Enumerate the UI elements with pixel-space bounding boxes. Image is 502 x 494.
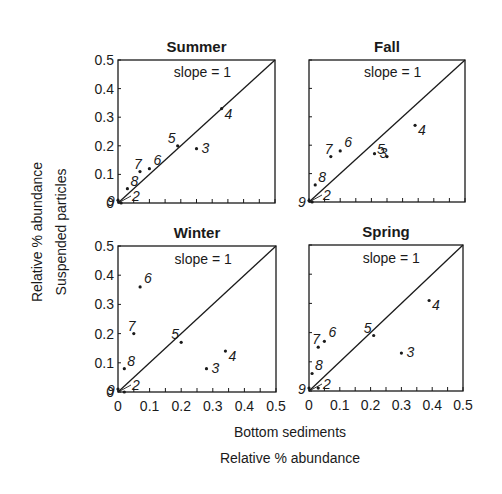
x-tick-label: 0.3 xyxy=(203,398,223,414)
panel-title: Winter xyxy=(174,224,221,241)
x-tick-label: 0 xyxy=(305,397,313,413)
data-point xyxy=(385,155,388,158)
point-label: 2 xyxy=(131,188,140,204)
data-point xyxy=(176,144,179,147)
point-label: 7 xyxy=(134,156,143,172)
data-point xyxy=(148,167,151,170)
data-point xyxy=(373,152,376,155)
point-label: 4 xyxy=(432,297,440,313)
data-point xyxy=(139,285,142,288)
y-tick-label: 0.1 xyxy=(95,166,115,182)
slope-label: slope = 1 xyxy=(174,64,231,80)
data-point xyxy=(220,107,223,110)
point-label: 4 xyxy=(228,348,236,364)
point-label: 7 xyxy=(128,318,137,334)
point-label: 2 xyxy=(322,376,331,392)
point-label: 8 xyxy=(130,173,138,189)
panel-title: Fall xyxy=(374,38,400,55)
x-tick-label: 0.2 xyxy=(361,397,381,413)
point-label: 2 xyxy=(131,377,140,393)
point-label: 3 xyxy=(406,344,414,360)
x-tick-label: 0.1 xyxy=(330,397,350,413)
point-label: 5 xyxy=(377,141,385,157)
data-point xyxy=(307,199,310,202)
point-label: 9 xyxy=(298,381,306,397)
panel-fall: Fallslope = 123456789 xyxy=(298,38,465,210)
point-label: 4 xyxy=(418,122,426,138)
y-tick-label: 0.1 xyxy=(95,355,115,371)
data-point xyxy=(180,341,183,344)
point-label: 9 xyxy=(298,194,306,210)
slope-one-line xyxy=(309,60,465,202)
panel-title: Spring xyxy=(362,223,410,240)
data-point xyxy=(339,149,342,152)
x-tick-label: 0 xyxy=(114,398,122,414)
data-point xyxy=(116,199,119,202)
data-point xyxy=(428,299,431,302)
point-label: 9 xyxy=(107,193,115,209)
x-tick-label: 0.5 xyxy=(453,397,473,413)
y-axis-title-line2: Suspended particles xyxy=(53,169,69,296)
data-point xyxy=(307,386,310,389)
data-point xyxy=(400,351,403,354)
y-tick-label: 0.5 xyxy=(95,238,115,254)
y-tick-label: 0.2 xyxy=(95,326,115,342)
data-point xyxy=(224,350,227,353)
panel-title: Summer xyxy=(166,38,226,55)
x-axis-title-line1: Bottom sediments xyxy=(234,424,346,440)
data-point xyxy=(310,372,313,375)
slope-label: slope = 1 xyxy=(364,64,421,80)
data-point xyxy=(323,340,326,343)
data-point xyxy=(205,367,208,370)
x-tick-label: 0.4 xyxy=(422,397,442,413)
x-axis-title-line2: Relative % abundance xyxy=(220,450,360,466)
point-label: 8 xyxy=(315,357,323,373)
data-point xyxy=(372,334,375,337)
point-label: 7 xyxy=(312,331,321,347)
point-label: 6 xyxy=(144,270,152,286)
y-tick-label: 0.5 xyxy=(95,52,115,68)
x-tick-label: 0.3 xyxy=(392,397,412,413)
panel-summer: Summer00.10.20.30.40.5slope = 123456789 xyxy=(95,38,275,211)
data-point xyxy=(123,390,126,393)
slope-label: slope = 1 xyxy=(175,251,232,267)
data-point xyxy=(126,187,129,190)
y-tick-label: 0.2 xyxy=(95,138,115,154)
point-label: 8 xyxy=(127,353,135,369)
point-label: 6 xyxy=(153,152,161,168)
point-label: 7 xyxy=(325,141,334,157)
seasonal-scatter-figure: Summer00.10.20.30.40.5slope = 123456789F… xyxy=(0,0,502,494)
slope-one-line xyxy=(309,245,463,391)
slope-one-line xyxy=(118,60,275,203)
data-point xyxy=(195,147,198,150)
x-tick-label: 0.4 xyxy=(235,398,255,414)
data-point xyxy=(116,387,119,390)
point-label: 5 xyxy=(364,320,372,336)
panels-group: Summer00.10.20.30.40.5slope = 123456789F… xyxy=(95,38,473,414)
point-label: 5 xyxy=(171,326,179,342)
point-label: 9 xyxy=(107,382,115,398)
point-label: 3 xyxy=(202,140,210,156)
slope-label: slope = 1 xyxy=(363,250,420,266)
panel-spring: Spring00.10.20.30.40.5slope = 123456789 xyxy=(298,223,473,413)
data-point xyxy=(314,183,317,186)
y-tick-label: 0.3 xyxy=(95,109,115,125)
point-label: 2 xyxy=(322,187,331,203)
panel-winter: Winter00.10.20.30.40.500.10.20.30.40.5sl… xyxy=(95,224,286,414)
slope-one-line xyxy=(118,246,276,392)
y-tick-label: 0.3 xyxy=(95,296,115,312)
data-point xyxy=(123,367,126,370)
point-label: 3 xyxy=(211,360,219,376)
point-label: 6 xyxy=(344,134,352,150)
x-tick-label: 0.1 xyxy=(140,398,160,414)
data-point xyxy=(413,124,416,127)
y-tick-label: 0.4 xyxy=(95,81,115,97)
point-label: 6 xyxy=(328,324,336,340)
point-label: 4 xyxy=(225,106,233,122)
y-axis-title-line1: Relative % abundance xyxy=(29,162,45,302)
x-tick-label: 0.2 xyxy=(171,398,191,414)
x-tick-label: 0.5 xyxy=(266,398,286,414)
point-label: 5 xyxy=(168,130,176,146)
point-label: 8 xyxy=(318,169,326,185)
y-tick-label: 0.4 xyxy=(95,267,115,283)
